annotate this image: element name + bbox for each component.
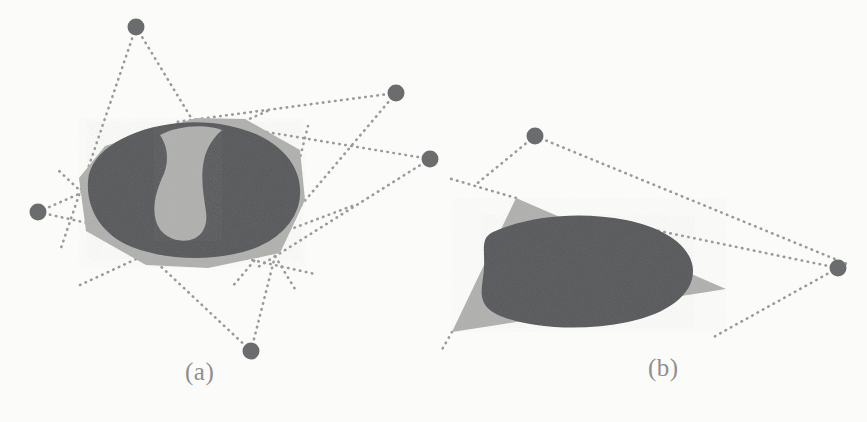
sample-point-3[interactable] xyxy=(422,151,439,168)
sample-point-2[interactable] xyxy=(830,260,847,277)
panel-label-a: (a) xyxy=(185,358,214,386)
sample-point-1[interactable] xyxy=(527,128,544,145)
geometry-figure xyxy=(0,0,867,422)
sample-point-5[interactable] xyxy=(243,343,260,360)
oval-region xyxy=(482,216,693,328)
panel-label-b: (b) xyxy=(648,354,679,382)
sample-point-4[interactable] xyxy=(30,204,47,221)
sample-point-1[interactable] xyxy=(128,19,145,36)
sample-point-2[interactable] xyxy=(388,85,405,102)
